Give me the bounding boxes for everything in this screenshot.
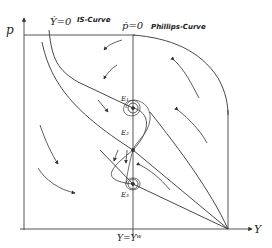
flow-arrows [38,40,207,193]
e3-label: E₃ [120,191,129,199]
y-axis-label: Y [254,223,263,236]
trajectory-upper-right [150,112,228,229]
e1-label: E₁ [120,95,129,103]
s-curve [111,108,146,184]
trajectory-main-left [42,42,228,229]
phillips-equation: ṗ=0 [122,20,144,31]
e2-label: E₂ [120,129,129,137]
phillips-curve-label: Phillips-Curve [151,23,206,31]
phillips-curve [133,35,228,115]
phase-diagram: p Y Ẏ=0 IS-Curve ṗ=0 Phillips-Curve E₁ E… [0,0,272,248]
axes [20,18,252,236]
is-curve-label: IS-Curve [77,16,111,24]
natural-output-label: Y=Yʷ [117,233,141,243]
e2-point [132,149,135,152]
is-equation: Ẏ=0 [50,16,72,27]
p-axis-label: p [6,23,14,37]
